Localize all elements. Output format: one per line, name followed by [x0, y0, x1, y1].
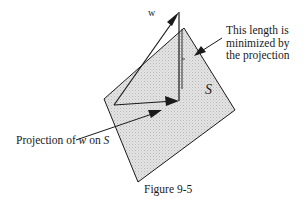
subspace-plane	[104, 28, 235, 182]
subspace-s-label: S	[205, 82, 212, 98]
vector-w-label: w	[148, 7, 155, 18]
projection-label-middle: on	[89, 134, 101, 146]
projection-label-prefix: Projection of	[16, 134, 76, 146]
callout-line-3: the projection	[226, 49, 290, 62]
minimized-length-callout: This length is minimized by the projecti…	[226, 24, 290, 62]
projection-label-vector: w	[79, 134, 87, 146]
vector-w-arrowhead	[167, 12, 179, 26]
projection-label-subspace: S	[104, 134, 110, 146]
callout-line-2: minimized by	[226, 37, 290, 50]
projection-label: Projection of w on S	[16, 134, 109, 146]
figure-caption: Figure 9-5	[144, 183, 192, 195]
callout-line-1: This length is	[226, 24, 290, 37]
